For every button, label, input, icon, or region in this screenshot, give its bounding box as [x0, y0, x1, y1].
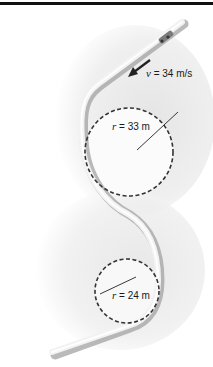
- upper-radius-label: r = 33 m: [112, 120, 150, 132]
- equals-sign: =: [116, 290, 127, 301]
- lower-radius-value: 24 m: [128, 290, 150, 301]
- lower-radius-label: r = 24 m: [112, 289, 150, 301]
- velocity-label: v = 34 m/s: [146, 67, 192, 79]
- track-diagram: [0, 0, 213, 367]
- velocity-value: 34 m/s: [162, 68, 192, 79]
- equals-sign: =: [116, 121, 127, 132]
- figure-canvas: v = 34 m/s r = 33 m r = 24 m: [0, 0, 213, 367]
- equals-sign: =: [151, 68, 162, 79]
- upper-radius-value: 33 m: [128, 121, 150, 132]
